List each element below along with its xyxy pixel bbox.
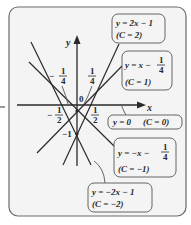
label-box-c1: y = x − 1 4 (C = 1) — [122, 51, 172, 90]
tick-num: 1 — [90, 66, 95, 76]
x-axis-label: x — [146, 102, 152, 113]
tick-den: 2 — [57, 115, 62, 125]
tick-num: 1 — [57, 105, 62, 115]
diagram-canvas: y x 0 − 1 4 1 4 − 1 2 1 2 −1 y = 2x − 1 … — [0, 0, 191, 225]
equation-cm1-num: 1 — [163, 142, 168, 152]
equation-c1-num: 1 — [159, 55, 164, 65]
label-box-c0: y = 0 (C = 0) — [108, 115, 182, 129]
tick-num: 1 — [61, 66, 66, 76]
param-cm2: (C = −2) — [92, 199, 124, 209]
tick-sign: − — [47, 110, 52, 120]
tick-den: 2 — [93, 115, 98, 125]
param-c0: (C = 0) — [143, 117, 169, 127]
point-neg-quarter — [75, 109, 78, 112]
equation-cm1-lhs: y = −x − — [117, 148, 149, 158]
param-c2: (C = 2) — [116, 30, 142, 40]
equation-c2: y = 2x − 1 — [115, 18, 153, 28]
equation-cm1-den: 4 — [163, 152, 168, 162]
label-box-c2: y = 2x − 1 (C = 2) — [112, 14, 165, 43]
param-c1: (C = 1) — [125, 77, 151, 87]
equation-c1-lhs: y = x − — [124, 60, 151, 70]
param-cm1: (C = −1) — [118, 164, 150, 174]
tick-den: 4 — [61, 76, 66, 86]
point-neg-one — [75, 132, 78, 135]
label-box-cm1: y = −x − 1 4 (C = −1) — [114, 138, 176, 177]
equation-c1-den: 4 — [159, 65, 164, 75]
equation-cm2: y = −2x − 1 — [91, 187, 135, 197]
tick-num: 1 — [93, 105, 98, 115]
tick-den: 4 — [90, 76, 95, 86]
tick-sign: − — [49, 71, 54, 81]
tick-neg-one: −1 — [62, 129, 72, 139]
origin-label: 0 — [79, 94, 84, 104]
y-axis-label: y — [65, 37, 71, 48]
label-box-cm2: y = −2x − 1 (C = −2) — [88, 183, 152, 212]
equation-c0: y = 0 — [112, 117, 132, 127]
